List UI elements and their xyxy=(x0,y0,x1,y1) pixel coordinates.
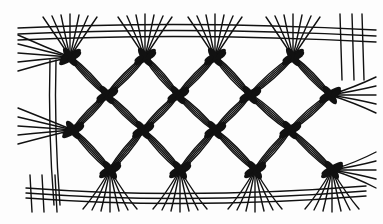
macrame-net-illustration xyxy=(0,0,383,224)
cord-strands xyxy=(18,14,376,212)
